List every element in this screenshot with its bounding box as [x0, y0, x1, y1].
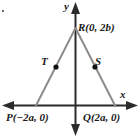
coordinate-geometry-figure: y x R(0, 2b) T S P(−2a, 0) Q(2a, 0) [0, 0, 140, 137]
point-dot-t [53, 64, 58, 69]
x-axis-left-arrowhead [2, 101, 14, 110]
x-axis [2, 101, 138, 110]
y-axis-label: y [64, 1, 69, 12]
vertex-label-p: P(−2a, 0) [6, 112, 49, 123]
vertex-label-q: Q(2a, 0) [83, 112, 120, 123]
image-speck [2, 10, 4, 12]
y-axis-top-arrowhead [71, 2, 80, 14]
y-axis-bottom-arrowhead [71, 124, 80, 136]
x-axis-right-arrowhead [126, 101, 138, 110]
x-axis-label: x [120, 89, 126, 100]
point-label-t: T [41, 56, 48, 67]
vertex-label-r: R(0, 2b) [78, 22, 115, 33]
point-label-s: S [95, 56, 101, 67]
